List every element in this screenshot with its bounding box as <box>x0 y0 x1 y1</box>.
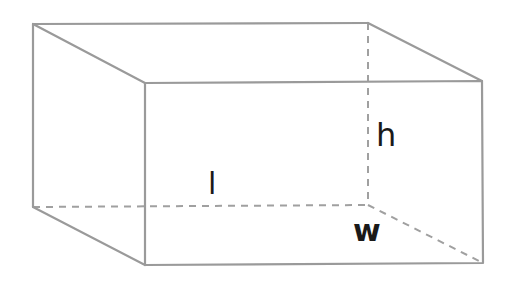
width-label: w <box>353 213 381 248</box>
edge-top-right-depth <box>368 23 482 81</box>
rectangular-prism-diagram: l h w <box>0 0 515 281</box>
height-label: h <box>376 116 396 154</box>
edge-back-top <box>33 23 368 24</box>
edge-bottom-left-depth <box>33 207 145 265</box>
edge-top-left-depth <box>33 24 145 83</box>
hidden-edge-bottom-right-depth <box>368 205 483 263</box>
hidden-edge-back-bottom <box>33 205 368 207</box>
length-label: l <box>208 166 216 201</box>
front-face <box>145 81 483 265</box>
